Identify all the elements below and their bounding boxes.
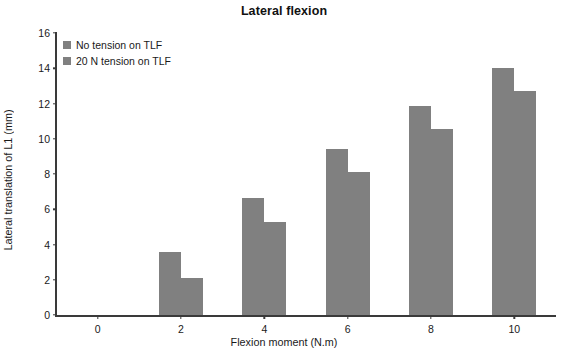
y-tick-mark	[53, 279, 56, 280]
x-tick-label: 6	[345, 323, 351, 335]
x-tick-label: 0	[95, 323, 101, 335]
y-tick-label: 10	[38, 133, 50, 145]
legend-label: 20 N tension on TLF	[76, 55, 171, 67]
legend-swatch-icon	[63, 41, 71, 49]
bar	[326, 149, 348, 315]
bar	[409, 106, 431, 315]
legend-swatch-icon	[63, 57, 71, 65]
x-tick-mark	[264, 315, 265, 319]
x-axis-line	[55, 315, 556, 317]
x-axis-label: Flexion moment (N.m)	[0, 336, 568, 348]
plot-area: 0246810121416 0246810	[56, 33, 556, 315]
bar-chart-figure: Lateral flexion Lateral translation of L…	[0, 0, 568, 359]
y-tick-label: 16	[38, 27, 50, 39]
x-tick-mark	[180, 315, 181, 319]
y-tick-mark	[53, 244, 56, 245]
x-tick-label: 4	[261, 323, 267, 335]
y-tick-mark	[53, 173, 56, 174]
bar	[431, 129, 453, 315]
x-tick-label: 10	[508, 323, 520, 335]
bar	[159, 252, 181, 315]
y-tick-mark	[53, 68, 56, 69]
x-tick-mark	[97, 315, 98, 319]
x-tick-label: 2	[178, 323, 184, 335]
bar	[514, 91, 536, 315]
y-axis-label: Lateral translation of L1 (mm)	[2, 109, 18, 250]
x-tick-mark	[430, 315, 431, 319]
legend-label: No tension on TLF	[76, 39, 162, 51]
bar	[242, 198, 264, 315]
bar	[264, 222, 286, 315]
y-tick-mark	[53, 103, 56, 104]
y-tick-mark	[53, 138, 56, 139]
y-axis-label-text: Lateral translation of L1 (mm)	[2, 109, 14, 250]
y-tick-mark	[53, 314, 56, 315]
y-tick-label: 2	[44, 274, 50, 286]
y-tick-label: 12	[38, 98, 50, 110]
y-tick-label: 4	[44, 239, 50, 251]
bar	[348, 172, 370, 315]
y-tick-label: 0	[44, 309, 50, 321]
bar	[492, 68, 514, 315]
bar	[181, 278, 203, 315]
x-tick-mark	[347, 315, 348, 319]
x-tick-label: 8	[428, 323, 434, 335]
legend-item: No tension on TLF	[63, 38, 171, 51]
x-tick-mark	[514, 315, 515, 319]
y-tick-mark	[53, 209, 56, 210]
y-tick-label: 8	[44, 168, 50, 180]
legend-item: 20 N tension on TLF	[63, 54, 171, 67]
chart-legend: No tension on TLF20 N tension on TLF	[63, 38, 171, 70]
y-tick-label: 14	[38, 62, 50, 74]
chart-title: Lateral flexion	[0, 4, 568, 18]
y-tick-label: 6	[44, 203, 50, 215]
y-tick-mark	[53, 32, 56, 33]
